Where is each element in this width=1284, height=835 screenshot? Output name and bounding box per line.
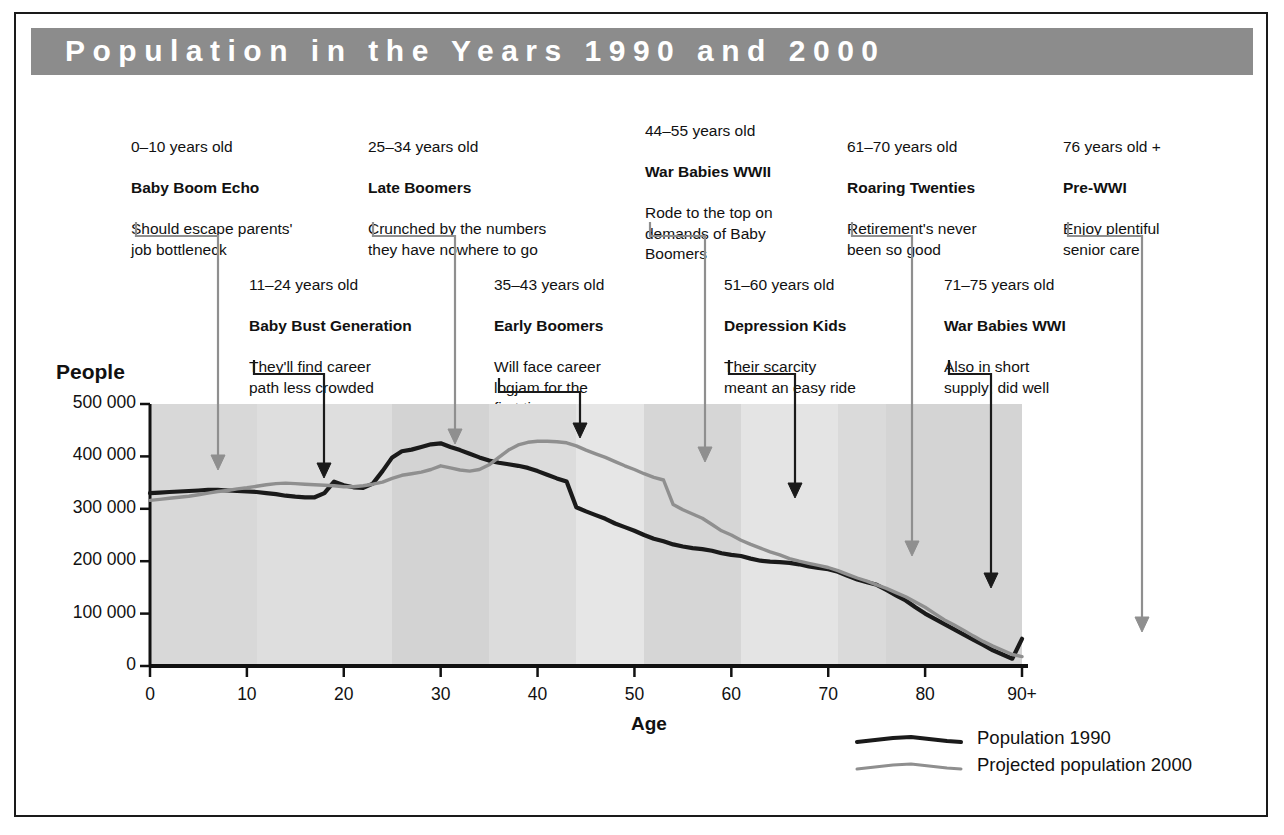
note-name: Early Boomers <box>494 316 604 337</box>
age-band <box>886 404 1022 666</box>
y-tick-label: 200 000 <box>73 549 136 570</box>
note-name: War Babies WWI <box>944 316 1066 337</box>
y-tick-label: 300 000 <box>73 497 136 518</box>
age-band <box>257 404 393 666</box>
y-tick-label: 0 <box>126 654 136 675</box>
legend-label: Projected population 2000 <box>977 754 1192 776</box>
note-desc: Also in short supply; did well <box>944 357 1066 398</box>
x-tick-label: 40 <box>528 684 547 705</box>
note-name: War Babies WWII <box>645 162 773 183</box>
annotation-note: 76 years old + Pre-WWI Enjoy plentiful s… <box>1063 116 1161 281</box>
note-age: 61–70 years old <box>847 137 977 158</box>
plot-area <box>150 404 1022 666</box>
x-tick-label: 0 <box>145 684 155 705</box>
legend-line-1990-icon <box>855 733 963 747</box>
legend-line-2000-icon <box>855 760 963 774</box>
note-age: 76 years old + <box>1063 137 1161 158</box>
chart-page: Population in the Years 1990 and 2000 0–… <box>0 0 1284 835</box>
note-desc: Their scarcity meant an easy ride <box>724 357 856 398</box>
age-band <box>150 404 257 666</box>
age-band <box>741 404 838 666</box>
x-axis-title: Age <box>631 713 667 735</box>
note-desc: Enjoy plentiful senior care <box>1063 219 1161 260</box>
annotation-note: 71–75 years old War Babies WWI Also in s… <box>944 254 1066 419</box>
note-desc: They'll find career path less crowded <box>249 357 412 398</box>
x-tick-label: 80 <box>915 684 934 705</box>
age-band <box>644 404 741 666</box>
y-tick-label: 400 000 <box>73 444 136 465</box>
note-name: Baby Bust Generation <box>249 316 412 337</box>
y-tick-label: 100 000 <box>73 602 136 623</box>
note-age: 35–43 years old <box>494 275 604 296</box>
note-age: 44–55 years old <box>645 121 773 142</box>
x-tick-label: 60 <box>722 684 741 705</box>
note-age: 51–60 years old <box>724 275 856 296</box>
page-title: Population in the Years 1990 and 2000 <box>65 34 886 68</box>
x-tick-label: 50 <box>625 684 644 705</box>
note-name: Roaring Twenties <box>847 178 977 199</box>
note-age: 71–75 years old <box>944 275 1066 296</box>
x-tick-label: 10 <box>237 684 256 705</box>
age-band <box>489 404 576 666</box>
note-name: Pre-WWI <box>1063 178 1161 199</box>
x-tick-label: 70 <box>818 684 837 705</box>
y-tick-label: 500 000 <box>73 392 136 413</box>
x-tick-label: 20 <box>334 684 353 705</box>
age-band <box>392 404 489 666</box>
y-axis-title: People <box>56 360 125 384</box>
age-band <box>838 404 886 666</box>
note-age: 25–34 years old <box>368 137 546 158</box>
note-name: Late Boomers <box>368 178 546 199</box>
x-tick-label: 90+ <box>1007 684 1037 705</box>
note-age: 0–10 years old <box>131 137 293 158</box>
x-tick-label: 30 <box>431 684 450 705</box>
annotation-note: 51–60 years old Depression Kids Their sc… <box>724 254 856 419</box>
title-banner: Population in the Years 1990 and 2000 <box>31 28 1253 75</box>
note-name: Baby Boom Echo <box>131 178 293 199</box>
legend-label: Population 1990 <box>977 727 1111 749</box>
note-name: Depression Kids <box>724 316 856 337</box>
age-band <box>576 404 644 666</box>
